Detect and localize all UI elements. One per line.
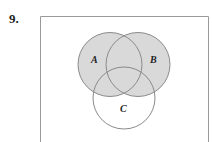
- set-a-label: A: [90, 54, 98, 65]
- set-c-label: C: [120, 103, 127, 114]
- venn-diagram: A B C: [0, 0, 212, 142]
- set-b-label: B: [149, 54, 157, 65]
